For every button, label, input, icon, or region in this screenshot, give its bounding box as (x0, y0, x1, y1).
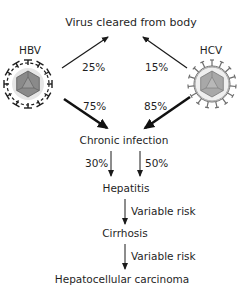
cirrhosis-to-carcinoma-risk: Variable risk (131, 250, 196, 262)
hbv-cleared-percent: 25% (82, 61, 105, 73)
hepatitis-progression-diagram: Virus cleared from body HBV HCV 25% 15% … (0, 0, 241, 294)
cirrhosis-label: Cirrhosis (102, 227, 147, 239)
hepatitis-label: Hepatitis (103, 182, 150, 194)
chronic-to-hepatitis-right-percent: 50% (145, 157, 168, 169)
hbv-label: HBV (19, 44, 41, 56)
hbv-chronic-percent: 75% (83, 100, 106, 112)
hcv-chronic-percent: 85% (144, 100, 167, 112)
hepatitis-to-cirrhosis-risk: Variable risk (131, 205, 196, 217)
virus-cleared-label: Virus cleared from body (65, 17, 197, 29)
hepatocellular-carcinoma-label: Hepatocellular carcinoma (55, 273, 189, 285)
chronic-to-hepatitis-left-percent: 30% (85, 157, 108, 169)
hbv-virus-icon (4, 60, 52, 108)
hcv-cleared-percent: 15% (145, 61, 168, 73)
chronic-infection-label: Chronic infection (80, 134, 169, 146)
hcv-virus-icon (188, 60, 236, 108)
hcv-label: HCV (200, 44, 222, 56)
